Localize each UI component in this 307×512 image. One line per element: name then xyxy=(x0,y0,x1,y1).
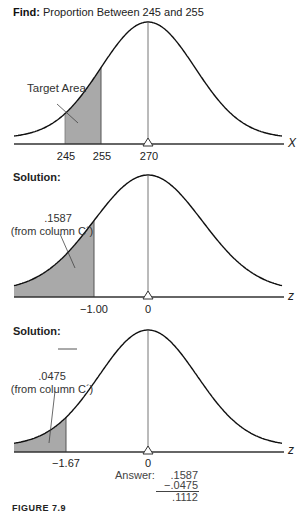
tick-270: 270 xyxy=(140,150,158,162)
axis-label-x: X xyxy=(288,136,296,150)
panel2-header: Solution: xyxy=(13,171,61,183)
tick-zero-3: 0 xyxy=(145,457,151,469)
panel3-header: Solution: xyxy=(13,325,61,337)
panel1-mean-triangle-icon xyxy=(143,138,153,146)
answer-result: .1112 xyxy=(150,491,198,503)
panel3-shaded-area xyxy=(14,417,66,452)
panel1-header: Find: Proportion Between 245 and 255 xyxy=(13,6,204,18)
tick-255: 255 xyxy=(93,150,111,162)
panel2-mean-triangle-icon xyxy=(143,291,153,299)
panel2-annotation-source: (from column C´) xyxy=(11,225,94,237)
panel3-annotation-source: (from column C´) xyxy=(11,383,94,395)
tick-neg-1-00: −1.00 xyxy=(80,303,108,315)
normal-curves-figure xyxy=(0,0,307,512)
target-area-label: Target Area xyxy=(27,82,86,94)
panel2-annotation-value: .1587 xyxy=(44,212,72,224)
panel3-mean-triangle-icon xyxy=(143,446,153,454)
axis-label-z-2: z xyxy=(288,289,294,303)
panel1-header-text: Proportion Between 245 and 255 xyxy=(43,6,204,18)
answer-label: Answer: xyxy=(115,469,155,481)
panel1-header-find: Find: xyxy=(13,6,40,18)
tick-neg-1-67: −1.67 xyxy=(52,457,80,469)
panel3-annotation-value: .0475 xyxy=(38,370,66,382)
figure-caption: FIGURE 7.9 xyxy=(12,503,66,512)
panel1-shaded-area xyxy=(65,68,101,144)
answer-subtrahend: −.0475 xyxy=(150,479,198,491)
tick-245: 245 xyxy=(57,150,75,162)
tick-zero-2: 0 xyxy=(145,303,151,315)
axis-label-z-3: z xyxy=(288,443,294,457)
